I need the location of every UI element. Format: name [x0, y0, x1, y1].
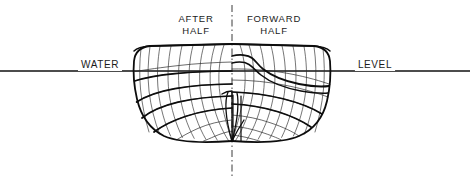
forward-half-label-line1: FORWARD: [247, 13, 301, 24]
after-half-label-line1: AFTER: [178, 13, 213, 24]
level-label: LEVEL: [358, 59, 392, 70]
diagram-canvas: WATER LEVEL AFTER HALF FORWARD HALF: [0, 0, 470, 185]
forward-half-label-line2: HALF: [260, 25, 287, 36]
after-half-label-line2: HALF: [182, 25, 209, 36]
water-label: WATER: [81, 59, 119, 70]
body-plan-svg: WATER LEVEL AFTER HALF FORWARD HALF: [0, 0, 470, 185]
